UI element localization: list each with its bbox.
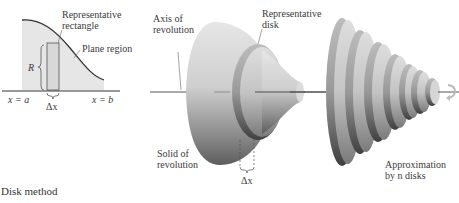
- axis-leader: [178, 52, 181, 90]
- representative-rectangle: [47, 43, 59, 90]
- representative-disk-label: Representative disk: [262, 8, 321, 30]
- x-equals-a-label: x = a: [8, 94, 29, 105]
- representative-rectangle-label: Representative rectangle: [62, 9, 121, 31]
- radius-label: R: [28, 62, 34, 73]
- plane-region-label: Plane region: [82, 43, 132, 54]
- axis-of-revolution-label: Axis of revolution: [153, 13, 194, 35]
- disk-stack: [290, 18, 459, 166]
- disk-leader: [258, 29, 262, 44]
- solid-of-revolution-label: Solid of revolution: [157, 148, 198, 170]
- approximation-label: Approximation by n disks: [385, 159, 446, 181]
- delta-x-label-middle: Δx: [241, 175, 252, 186]
- plane-region-panel: [2, 20, 120, 99]
- delta-x-label-left: Δx: [46, 101, 57, 112]
- x-equals-b-label: x = b: [92, 94, 113, 105]
- figure-caption: Disk method: [1, 185, 58, 197]
- delta-x-brace: [47, 93, 59, 99]
